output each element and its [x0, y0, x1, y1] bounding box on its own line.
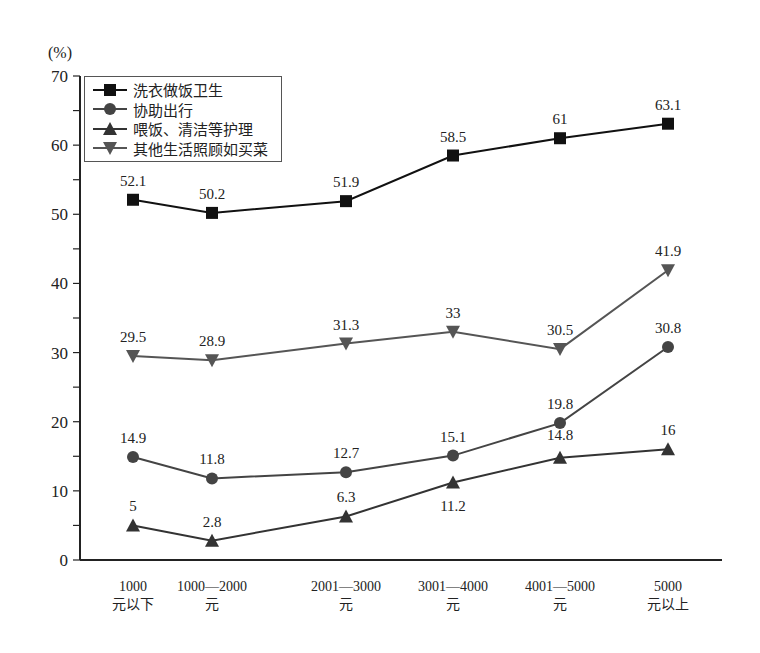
- circle-marker: [104, 103, 116, 115]
- series-triangle-down: 29.528.931.33330.541.9: [120, 243, 681, 367]
- data-label: 30.8: [655, 320, 681, 336]
- data-label: 14.9: [120, 430, 146, 446]
- circle-marker: [127, 451, 139, 463]
- data-label: 28.9: [199, 333, 225, 349]
- data-label: 51.9: [333, 174, 359, 190]
- legend-label: 洗衣做饭卫生: [133, 79, 223, 100]
- data-label: 15.1: [440, 429, 466, 445]
- legend-item: 喂饭、清洁等护理: [91, 119, 275, 139]
- x-tick-label: 4001—5000元: [505, 578, 615, 614]
- data-label: 5: [129, 498, 137, 514]
- square-marker: [554, 132, 566, 144]
- data-label: 19.8: [547, 396, 573, 412]
- legend-item: 协助出行: [91, 100, 275, 120]
- square-marker: [340, 195, 352, 207]
- y-tick-label: 30: [51, 344, 68, 363]
- circle-marker: [340, 466, 352, 478]
- x-tick-label: 3001—4000元: [398, 578, 508, 614]
- y-tick-label: 40: [51, 274, 68, 293]
- legend-label: 喂饭、清洁等护理: [133, 118, 253, 139]
- square-marker: [104, 84, 116, 96]
- data-label: 61: [553, 111, 568, 127]
- chart-legend: 洗衣做饭卫生协助出行喂饭、清洁等护理其他生活照顾如买菜: [84, 76, 282, 162]
- x-tick-label: 2001—3000元: [291, 578, 401, 614]
- square-marker: [206, 207, 218, 219]
- triangle-down-legend-icon: [91, 141, 129, 155]
- square-marker: [127, 194, 139, 206]
- data-label: 14.8: [547, 427, 573, 443]
- data-label: 31.3: [333, 317, 359, 333]
- data-label: 11.2: [440, 498, 466, 514]
- y-tick-label: 70: [51, 67, 68, 86]
- data-label: 16: [661, 422, 677, 438]
- triangle-up-legend-icon: [91, 122, 129, 136]
- series-triangle-up: 52.86.311.214.816: [126, 422, 676, 546]
- square-marker: [447, 150, 459, 162]
- y-axis-unit: (%): [48, 44, 72, 62]
- data-label: 33: [446, 305, 461, 321]
- triangle-down-marker: [661, 264, 675, 277]
- data-label: 2.8: [203, 514, 222, 530]
- circle-legend-icon: [91, 102, 129, 116]
- triangle-up-marker: [339, 509, 353, 522]
- y-tick-label: 20: [51, 413, 68, 432]
- x-tick-label: 1000—2000元: [157, 578, 267, 614]
- data-label: 58.5: [440, 129, 466, 145]
- data-label: 11.8: [199, 451, 225, 467]
- legend-label: 协助出行: [133, 99, 193, 120]
- square-legend-icon: [91, 83, 129, 97]
- triangle-up-marker: [126, 518, 140, 531]
- data-label: 29.5: [120, 329, 146, 345]
- y-tick-label: 10: [51, 482, 68, 501]
- data-label: 41.9: [655, 243, 681, 259]
- circle-marker: [662, 341, 674, 353]
- circle-marker: [447, 450, 459, 462]
- data-label: 63.1: [655, 97, 681, 113]
- circle-marker: [206, 472, 218, 484]
- x-tick-label: 5000元以上: [613, 578, 723, 614]
- legend-label: 其他生活照顾如买菜: [133, 138, 268, 159]
- y-tick-label: 60: [51, 136, 68, 155]
- y-tick-label: 50: [51, 205, 68, 224]
- square-marker: [662, 118, 674, 130]
- data-label: 30.5: [547, 322, 573, 338]
- triangle-down-marker: [553, 343, 567, 356]
- data-label: 6.3: [337, 489, 356, 505]
- legend-item: 洗衣做饭卫生: [91, 80, 275, 100]
- data-label: 12.7: [333, 445, 360, 461]
- data-label: 50.2: [199, 186, 225, 202]
- data-label: 52.1: [120, 173, 146, 189]
- legend-item: 其他生活照顾如买菜: [91, 139, 275, 159]
- y-tick-label: 0: [60, 551, 69, 570]
